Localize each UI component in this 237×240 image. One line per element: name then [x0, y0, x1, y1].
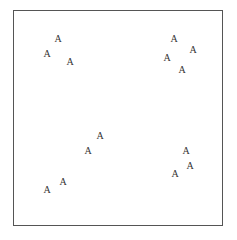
glyph-a: A: [96, 131, 103, 141]
glyph-a: A: [189, 45, 196, 55]
glyph-a: A: [59, 177, 66, 187]
glyph-a: A: [171, 169, 178, 179]
glyph-a: A: [66, 57, 73, 67]
glyph-a: A: [43, 49, 50, 59]
glyph-a: A: [178, 65, 185, 75]
glyph-a: A: [43, 185, 50, 195]
glyph-a: A: [54, 34, 61, 44]
glyph-a: A: [182, 146, 189, 156]
glyph-a: A: [170, 34, 177, 44]
glyph-a: A: [163, 53, 170, 63]
glyph-a: A: [186, 161, 193, 171]
glyph-a: A: [84, 146, 91, 156]
